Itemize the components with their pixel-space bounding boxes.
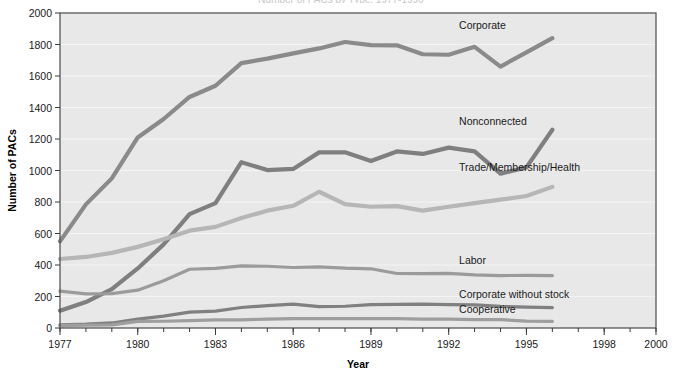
x-tick-label: 1998 xyxy=(592,338,616,350)
y-tick-label: 800 xyxy=(34,196,52,208)
x-axis-title: Year xyxy=(347,358,369,370)
y-tick-label: 1200 xyxy=(29,133,53,145)
x-tick-label: 1977 xyxy=(48,338,72,350)
y-tick-label: 1400 xyxy=(29,102,53,114)
series-label-nonconnected: Nonconnected xyxy=(459,115,527,127)
chart-clipped-title: Number of PACs by Type, 1977-1996 xyxy=(0,0,682,3)
series-label-cooperative: Cooperative xyxy=(459,303,516,315)
x-tick-label: 1989 xyxy=(359,338,383,350)
y-tick-label: 1800 xyxy=(29,39,53,51)
y-tick-label: 0 xyxy=(46,322,52,334)
y-axis: 0200400600800100012001400160018002000 xyxy=(29,7,60,334)
x-tick-label: 1995 xyxy=(515,338,539,350)
series-label-corporate: Corporate xyxy=(459,19,506,31)
y-tick-label: 1000 xyxy=(29,165,53,177)
x-tick-label: 1980 xyxy=(126,338,150,350)
x-axis: 197719801983198619891992199519982000 xyxy=(48,328,668,350)
y-tick-label: 600 xyxy=(34,228,52,240)
series-label-trade-membership-health: Trade/Membership/Health xyxy=(459,161,580,173)
pac-line-chart: Number of PACs by Type, 1977-1996 020040… xyxy=(0,0,682,370)
y-tick-label: 1600 xyxy=(29,70,53,82)
chart-canvas: 0200400600800100012001400160018002000197… xyxy=(0,0,682,370)
y-tick-label: 200 xyxy=(34,291,52,303)
y-axis-title: Number of PACs xyxy=(6,129,18,212)
x-tick-label: 1983 xyxy=(204,338,228,350)
series-label-corporate-without-stock: Corporate without stock xyxy=(459,288,570,300)
y-tick-label: 2000 xyxy=(29,7,53,19)
x-tick-label: 2000 xyxy=(644,338,668,350)
y-tick-label: 400 xyxy=(34,259,52,271)
x-tick-label: 1992 xyxy=(437,338,461,350)
series-label-labor: Labor xyxy=(459,254,486,266)
x-tick-label: 1986 xyxy=(282,338,306,350)
